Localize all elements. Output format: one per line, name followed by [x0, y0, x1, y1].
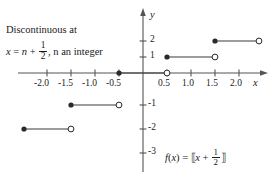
y-tick-label-neg3: -3	[148, 146, 156, 156]
annotation-equals: =	[13, 46, 19, 57]
step-segment-y-2	[212, 38, 262, 44]
annotation-fraction-numerator: 1	[39, 41, 47, 51]
annotation-line-2: x = n + 12, n an integer	[6, 41, 138, 61]
annotation-plus: +	[30, 46, 36, 57]
annotation-tail: , n an integer	[48, 46, 103, 57]
formula-fraction: 12	[212, 148, 220, 167]
x-tick-label-neg0-5: -0.5	[106, 78, 121, 88]
x-tick-label-neg2: -2.0	[34, 78, 49, 88]
x-axis-label: x	[253, 77, 258, 88]
y-tick-label-1: 1	[150, 50, 155, 60]
formula-rparen: )	[176, 152, 180, 163]
formula-fraction-numerator: 1	[212, 148, 220, 157]
x-tick-label-neg1-5: -1.5	[58, 78, 73, 88]
formula-inner-var: x	[195, 152, 200, 163]
step-segment-y-1	[164, 54, 218, 60]
step-segment-y-neg1	[68, 102, 122, 108]
annotation-fraction-denominator: 2	[39, 51, 47, 62]
y-axis	[140, 8, 146, 172]
y-tick-label-2: 2	[150, 34, 155, 44]
y-axis-label: y	[150, 9, 155, 20]
step-segment-y-neg2	[21, 126, 74, 132]
discontinuity-annotation: Discontinuous at x = n + 12, n an intege…	[6, 24, 138, 62]
x-tick-label-neg1: -1.0	[82, 78, 97, 88]
y-tick-label-neg2: -2	[148, 122, 156, 132]
formula-plus: +	[203, 152, 209, 163]
annotation-var-x: x	[6, 46, 11, 57]
formula-equals: =	[182, 152, 188, 163]
step-function-figure: -2.0 -1.5 -1.0 -0.5 0.5 1.0 1.5 2.0 2 1 …	[0, 0, 273, 179]
x-tick-label-0-5: 0.5	[158, 78, 170, 88]
x-tick-label-2: 2.0	[230, 78, 242, 88]
annotation-var-n: n	[22, 46, 27, 57]
x-tick-label-1: 1.0	[182, 78, 194, 88]
annotation-fraction: 12	[39, 41, 47, 61]
function-formula: f(x) = ⟦x + 12⟧	[165, 148, 225, 167]
x-tick-label-1-5: 1.5	[206, 78, 218, 88]
annotation-line-1: Discontinuous at	[6, 24, 138, 36]
formula-bracket-close: ⟧	[221, 152, 226, 163]
y-tick-label-neg1: -1	[148, 98, 156, 108]
formula-fraction-denominator: 2	[212, 157, 220, 167]
